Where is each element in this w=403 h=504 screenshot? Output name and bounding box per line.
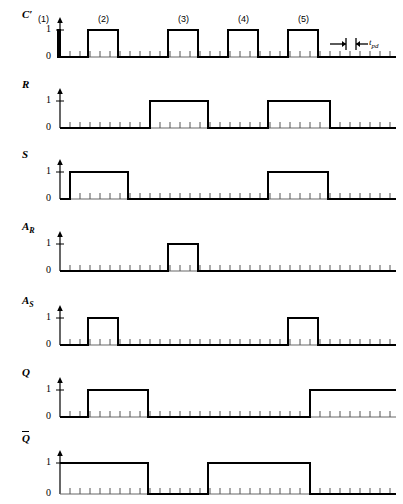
signal-label-A_R: AR: [22, 220, 35, 235]
waveform-row-Q: Q01: [0, 366, 403, 429]
axis-label-1-Q: 1: [46, 383, 51, 394]
clock-cycle-label-4: (4): [238, 14, 249, 24]
axis-label-1-A_S: 1: [46, 311, 51, 322]
axis-label-0-A_S: 0: [46, 338, 51, 349]
waveform-row-R: R01: [0, 78, 403, 140]
tpd-arrows: [0, 36, 403, 60]
signal-label-Q: Q: [22, 366, 30, 378]
tpd-label-sub: pd: [372, 42, 379, 50]
axis-label-1-R: 1: [46, 94, 51, 105]
waveform-row-Q_bar: Q01: [0, 432, 403, 504]
axis-label-1-clock: 1: [46, 23, 51, 34]
axis-label-0-A_R: 0: [46, 264, 51, 275]
clock-cycle-label-2: (2): [98, 14, 109, 24]
axis-label-1-Q_bar: 1: [46, 456, 51, 467]
waveform-row-A_R: AR01: [0, 220, 403, 283]
signal-label-Q_bar: Q: [22, 432, 30, 444]
signal-label-A_S: AS: [22, 294, 34, 309]
axis-label-0-R: 0: [46, 121, 51, 132]
axis-label-1-S: 1: [46, 165, 51, 176]
waveform-row-S: S01: [0, 148, 403, 211]
signal-label-R: R: [22, 78, 29, 90]
axis-label-0-Q_bar: 0: [46, 487, 51, 498]
axis-label-0-Q: 0: [46, 410, 51, 421]
tpd-label: tpd: [369, 37, 379, 50]
axis-label-1-A_R: 1: [46, 237, 51, 248]
timing-diagram: C′01R01S01AR01AS01Q01Q01 (1)(2)(3)(4)(5)…: [0, 0, 403, 504]
waveform-row-A_S: AS01: [0, 294, 403, 357]
clock-cycle-label-1: (1): [38, 14, 49, 24]
signal-label-S: S: [22, 148, 28, 160]
axis-label-0-S: 0: [46, 192, 51, 203]
clock-cycle-label-5: (5): [298, 14, 309, 24]
clock-cycle-label-3: (3): [178, 14, 189, 24]
signal-label-clock: C′: [22, 8, 32, 20]
